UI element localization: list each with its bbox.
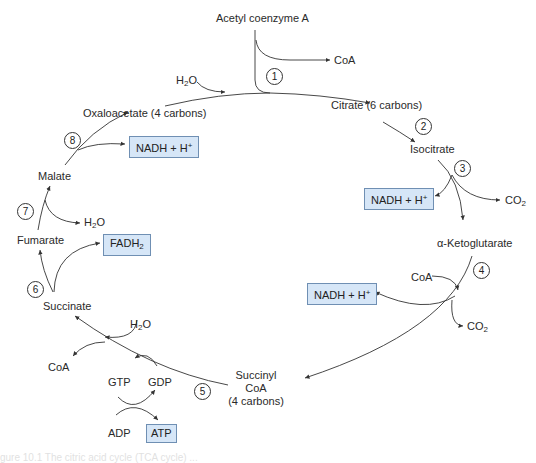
compound-alpha-ketoglutarate: α-Ketoglutarate xyxy=(437,237,512,250)
compound-succinate: Succinate xyxy=(43,300,91,313)
step-8: 8 xyxy=(64,132,81,149)
step-1: 1 xyxy=(266,68,283,85)
step-7: 7 xyxy=(17,203,34,220)
label-gtp: GTP xyxy=(108,376,131,389)
step-4: 4 xyxy=(473,262,490,279)
label-adp: ADP xyxy=(108,427,131,440)
step-3: 3 xyxy=(454,160,471,177)
product-nadh-step3: NADH + H+ xyxy=(364,188,434,210)
label-coa-step1: CoA xyxy=(334,54,355,67)
label-gdp: GDP xyxy=(148,376,172,389)
compound-acetyl-coa: Acetyl coenzyme A xyxy=(216,12,309,25)
succinyl-coa-line1: Succinyl xyxy=(226,369,286,382)
compound-succinyl-coa: Succinyl CoA (4 carbons) xyxy=(226,369,286,408)
label-co2-step4: CO2 xyxy=(467,320,488,336)
succinyl-coa-line3: (4 carbons) xyxy=(226,395,286,408)
label-h2o-step5: H2O xyxy=(130,318,151,334)
compound-isocitrate: Isocitrate xyxy=(410,143,455,156)
label-h2o-step7: H2O xyxy=(84,216,105,232)
compound-oxaloacetate: Oxaloacetate (4 carbons) xyxy=(83,107,207,120)
figure-caption: gure 10.1 The citric acid cycle (TCA cyc… xyxy=(0,452,198,463)
label-co2-step3: CO2 xyxy=(505,194,526,210)
step-5: 5 xyxy=(194,383,211,400)
label-coa-step4: CoA xyxy=(411,271,432,284)
label-coa-step5: CoA xyxy=(48,361,69,374)
step-6: 6 xyxy=(27,281,44,298)
succinyl-coa-line2: CoA xyxy=(226,382,286,395)
product-nadh-step8: NADH + H+ xyxy=(129,136,199,158)
compound-fumarate: Fumarate xyxy=(17,234,64,247)
step-2: 2 xyxy=(415,118,432,135)
compound-malate: Malate xyxy=(38,170,71,183)
product-nadh-step4: NADH + H+ xyxy=(307,283,377,305)
product-atp: ATP xyxy=(146,424,177,443)
product-fadh2: FADH2 xyxy=(103,234,151,256)
compound-citrate: Citrate (6 carbons) xyxy=(331,99,422,112)
label-h2o-step1: H2O xyxy=(176,74,197,90)
